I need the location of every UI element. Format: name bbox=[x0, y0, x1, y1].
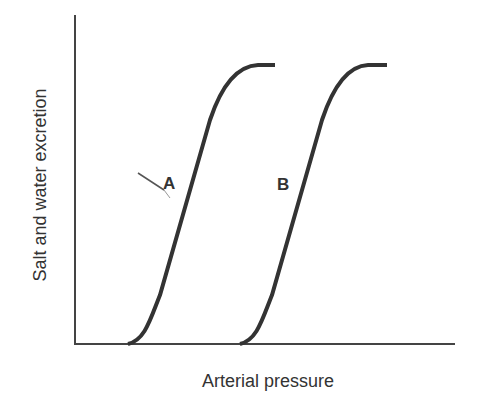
curve-a-label: A bbox=[163, 174, 175, 194]
curve-a bbox=[128, 65, 275, 344]
y-axis-label: Salt and water excretion bbox=[30, 88, 51, 281]
chart-canvas bbox=[0, 0, 483, 411]
annotation-pointer bbox=[138, 173, 164, 190]
curve-b bbox=[240, 65, 387, 344]
curve-b-label: B bbox=[277, 175, 289, 195]
x-axis-label: Arterial pressure bbox=[202, 371, 334, 392]
